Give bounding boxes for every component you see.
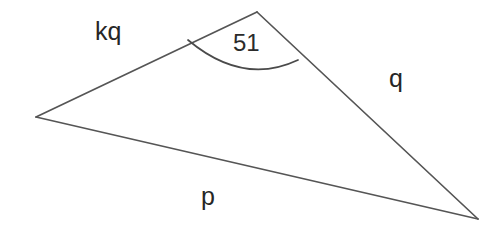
- side-label-p: p: [201, 184, 215, 209]
- triangle-side-p: [36, 117, 478, 219]
- side-label-kq: kq: [95, 19, 121, 44]
- angle-value-label: 51: [233, 31, 260, 55]
- triangle-side-kq: [36, 12, 257, 117]
- side-label-q: q: [389, 66, 403, 91]
- triangle-side-q: [257, 12, 478, 219]
- triangle-diagram: kq q p 51: [0, 0, 500, 233]
